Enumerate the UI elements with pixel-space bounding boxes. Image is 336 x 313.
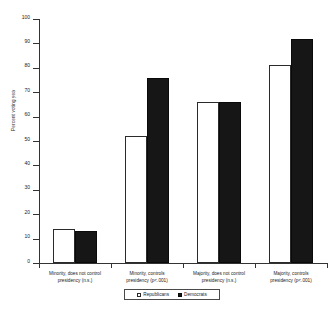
y-tick-label: 100: [8, 17, 30, 18]
filled-square-icon: [178, 293, 182, 297]
bar-democrats-group-4: [291, 39, 313, 263]
y-tick-label: 40: [8, 163, 30, 164]
category-label-line: presidency (p<.001): [252, 277, 330, 284]
category-label-4: Majority, controlspresidency (p<.001): [252, 270, 330, 284]
x-tick-mark: [39, 263, 40, 268]
y-tick-label: 60: [8, 114, 30, 115]
category-label-line: Majority, does not control: [180, 270, 258, 277]
category-label-2: Minority, controlspresidency (p<.001): [108, 270, 186, 284]
y-tick-label: 20: [8, 212, 30, 213]
x-tick-mark: [111, 263, 112, 268]
x-tick-mark: [255, 263, 256, 268]
bar-republicans-group-2: [125, 136, 147, 263]
bar-republicans-group-4: [269, 65, 291, 263]
bar-democrats-group-1: [75, 231, 97, 263]
plot-area: [39, 19, 327, 263]
category-label-line: presidency (n.s.): [180, 277, 258, 284]
open-square-icon: [137, 293, 141, 297]
legend-entry-democrats: Democrats: [178, 292, 207, 297]
category-label-line: Minority, controls: [108, 270, 186, 277]
x-tick-mark: [183, 263, 184, 268]
category-label-line: Majority, controls: [252, 270, 330, 277]
category-label-line: Minority, does not control: [36, 270, 114, 277]
y-tick-label: 70: [8, 90, 30, 91]
bar-chart: Percent voting yea 100908070605040302010…: [0, 0, 336, 313]
y-tick-label: 30: [8, 187, 30, 188]
legend-label-republicans: Republicans: [143, 292, 169, 297]
category-label-3: Majority, does not controlpresidency (n.…: [180, 270, 258, 284]
bar-democrats-group-3: [219, 102, 241, 263]
category-label-1: Minority, does not controlpresidency (n.…: [36, 270, 114, 284]
legend-entry-republicans: Republicans: [137, 292, 169, 297]
y-axis-title: Percent voting yea: [11, 56, 16, 166]
bar-republicans-group-1: [53, 229, 75, 263]
y-tick-label: 90: [8, 41, 30, 42]
y-tick-label: 10: [8, 236, 30, 237]
bar-republicans-group-3: [197, 102, 219, 263]
y-tick-label: 50: [8, 139, 30, 140]
category-label-line: presidency (n.s.): [36, 277, 114, 284]
chart-legend: Republicans Democrats: [124, 289, 220, 300]
category-label-line: presidency (p<.001): [108, 277, 186, 284]
x-tick-mark: [327, 263, 328, 268]
bar-democrats-group-2: [147, 78, 169, 263]
y-tick-label: 80: [8, 65, 30, 66]
y-tick-label: 0: [8, 261, 30, 262]
legend-label-democrats: Democrats: [184, 292, 207, 297]
